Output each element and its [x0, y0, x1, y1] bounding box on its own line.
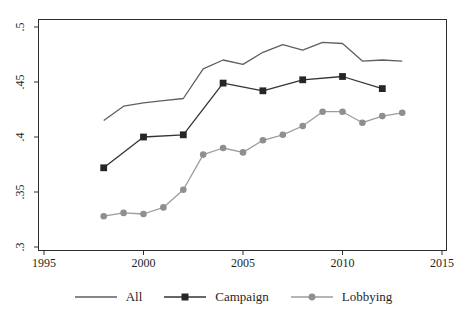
data-point-circle — [220, 145, 227, 152]
y-tick-label: .5 — [13, 23, 27, 32]
data-point-square — [299, 76, 306, 83]
data-point-circle — [280, 132, 287, 139]
data-point-circle — [200, 151, 207, 158]
y-tick-label: .35 — [13, 185, 27, 200]
data-point-circle — [240, 149, 247, 156]
legend-item-lobbying: Lobbying — [291, 290, 393, 303]
data-point-square — [220, 80, 227, 87]
data-point-circle — [260, 137, 267, 144]
data-point-circle — [359, 119, 366, 126]
data-point-square — [260, 87, 267, 94]
x-axis-title: Year — [231, 270, 255, 271]
line-chart-plot: .3.35.4.45.519952000200520102015Year — [0, 0, 467, 270]
data-point-square — [100, 164, 107, 171]
data-point-circle — [339, 108, 346, 115]
data-point-circle — [180, 187, 187, 194]
data-point-circle — [100, 213, 107, 220]
legend-label: Campaign — [215, 290, 268, 303]
x-tick-label: 2005 — [231, 256, 255, 270]
data-point-square — [379, 85, 386, 92]
data-point-circle — [319, 108, 326, 115]
y-tick-label: .4 — [13, 133, 27, 142]
series-line-lobbying — [104, 112, 403, 217]
data-point-circle — [140, 211, 147, 218]
legend-swatch-circle-icon — [291, 292, 333, 302]
x-tick-label: 2000 — [132, 256, 156, 270]
legend-swatch-line-icon — [75, 292, 117, 302]
data-point-square — [339, 73, 346, 80]
data-point-circle — [299, 123, 306, 130]
data-point-circle — [399, 110, 406, 117]
legend-item-campaign: Campaign — [164, 290, 268, 303]
y-tick-label: .3 — [13, 243, 27, 252]
legend-swatch-square-icon — [164, 292, 206, 302]
data-point-square — [180, 131, 187, 138]
plot-border — [39, 20, 447, 251]
data-point-circle — [120, 210, 127, 217]
data-point-circle — [379, 113, 386, 120]
legend-label: All — [126, 290, 143, 303]
y-tick-label: .45 — [13, 75, 27, 90]
legend-label: Lobbying — [342, 290, 393, 303]
chart-figure: .3.35.4.45.519952000200520102015Year All… — [0, 0, 467, 315]
x-tick-label: 2015 — [430, 256, 454, 270]
data-point-circle — [160, 204, 167, 211]
legend: AllCampaignLobbying — [0, 290, 467, 303]
data-point-square — [140, 134, 147, 141]
x-tick-label: 1995 — [32, 256, 56, 270]
x-tick-label: 2010 — [331, 256, 355, 270]
legend-item-all: All — [75, 290, 143, 303]
